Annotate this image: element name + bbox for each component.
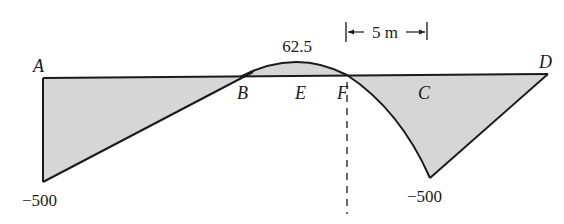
value-peak: 62.5 xyxy=(282,37,312,56)
label-a: A xyxy=(32,56,45,76)
value-right-min: −500 xyxy=(407,187,442,206)
arrowhead-left-icon xyxy=(348,30,354,35)
label-f: F xyxy=(336,83,349,103)
label-d: D xyxy=(538,52,552,72)
moment-diagram: 5 m A B E F C D 62.5 −500 −500 xyxy=(0,0,564,224)
arrowhead-right-icon xyxy=(419,30,425,35)
label-e: E xyxy=(294,83,306,103)
label-c: C xyxy=(418,83,431,103)
dimension-label: 5 m xyxy=(372,23,398,42)
label-b: B xyxy=(237,83,248,103)
value-left-min: −500 xyxy=(22,191,57,210)
